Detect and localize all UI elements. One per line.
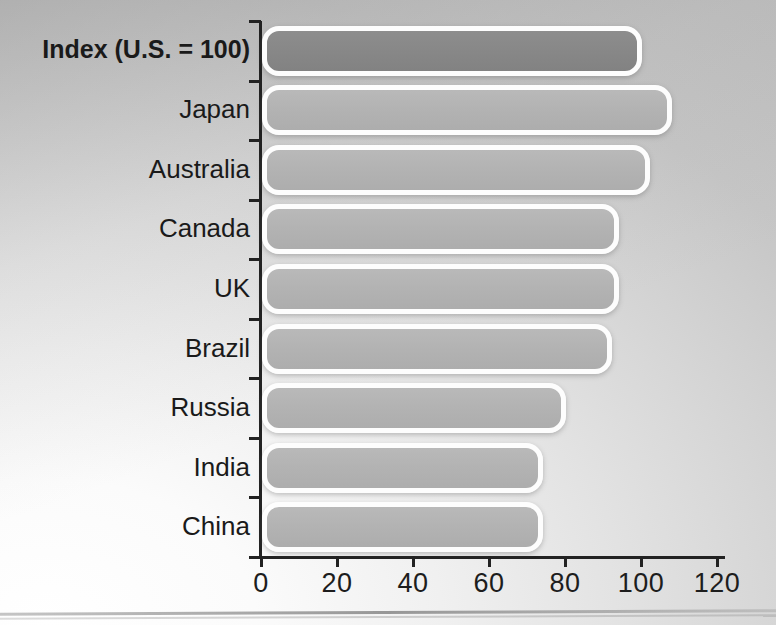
y-axis-tick <box>249 437 261 440</box>
x-axis-tick <box>564 556 567 567</box>
y-axis-tick <box>249 80 261 83</box>
bar-russia <box>262 383 566 433</box>
bar-label-china: China <box>182 513 250 539</box>
bar-uk <box>262 264 619 314</box>
x-axis-tick <box>640 556 643 567</box>
bar-canada <box>262 204 619 254</box>
x-axis-tick <box>716 556 719 567</box>
bar-label-uk: UK <box>214 275 250 301</box>
bar-japan <box>262 85 672 135</box>
x-axis-tick-label: 0 <box>253 568 269 599</box>
bar-label-australia: Australia <box>149 156 250 182</box>
x-axis-tick-label: 40 <box>397 568 428 599</box>
y-axis-tick <box>249 20 261 23</box>
x-axis-tick-label: 120 <box>694 568 741 599</box>
bar-china <box>262 502 543 552</box>
x-axis-line <box>259 556 725 559</box>
x-axis-tick <box>260 556 263 567</box>
y-axis-tick <box>249 377 261 380</box>
x-axis-tick-label: 20 <box>321 568 352 599</box>
y-axis-tick <box>249 199 261 202</box>
bar-label-india: India <box>194 454 250 480</box>
bar-label-japan: Japan <box>179 96 250 122</box>
bar-label-russia: Russia <box>171 394 250 420</box>
bar-brazil <box>262 324 612 374</box>
y-axis-tick <box>249 318 261 321</box>
bar-index-u-s-100 <box>262 26 642 76</box>
bar-label-brazil: Brazil <box>185 335 250 361</box>
bar-india <box>262 443 543 493</box>
x-axis-tick-label: 100 <box>618 568 665 599</box>
x-axis-tick <box>336 556 339 567</box>
y-axis-tick <box>249 496 261 499</box>
bar-label-index-u-s-100: Index (U.S. = 100) <box>42 37 250 62</box>
y-axis-tick <box>249 258 261 261</box>
x-axis-tick <box>488 556 491 567</box>
y-axis-tick <box>249 139 261 142</box>
horizontal-bar-chart: Index (U.S. = 100)JapanAustraliaCanadaUK… <box>0 0 776 625</box>
x-axis-tick <box>412 556 415 567</box>
bar-australia <box>262 145 650 195</box>
bar-label-canada: Canada <box>159 215 250 241</box>
chart-page: Index (U.S. = 100)JapanAustraliaCanadaUK… <box>0 0 776 625</box>
x-axis-tick-label: 60 <box>473 568 504 599</box>
x-axis-tick-label: 80 <box>549 568 580 599</box>
